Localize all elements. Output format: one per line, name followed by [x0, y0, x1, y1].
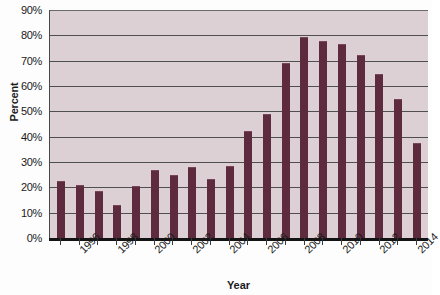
x-axis-title: Year — [49, 279, 428, 291]
bar-slot — [108, 10, 127, 238]
bar — [57, 181, 65, 238]
bar-slot — [89, 10, 108, 238]
x-axis-tick — [60, 238, 61, 245]
bar-slot — [276, 10, 295, 238]
bar — [188, 167, 196, 238]
bar — [413, 143, 421, 238]
bar — [95, 191, 103, 238]
bar-slot — [407, 10, 426, 238]
y-axis-tick-label: 60% — [21, 80, 42, 92]
bar — [282, 63, 290, 238]
y-axis-tick-label: 50% — [21, 105, 42, 117]
bar-slot — [314, 10, 333, 238]
bar — [170, 175, 178, 238]
plot-area — [49, 10, 428, 238]
bar-slot — [71, 10, 90, 238]
y-axis-tick-label: 10% — [21, 207, 42, 219]
bar-slot — [370, 10, 389, 238]
bar-slot — [146, 10, 165, 238]
bar — [226, 166, 234, 238]
bar — [338, 44, 346, 238]
x-tick-slot — [51, 238, 70, 245]
bar-slot — [202, 10, 221, 238]
bar-slot — [164, 10, 183, 238]
bar-slot — [220, 10, 239, 238]
bar-slot — [295, 10, 314, 238]
bars-container — [50, 10, 428, 238]
y-axis-tick-label: 20% — [21, 181, 42, 193]
y-axis-tick-label: 30% — [21, 156, 42, 168]
y-axis-tick-label: 40% — [21, 131, 42, 143]
y-axis-tick-labels: 0%10%20%30%40%50%60%70%80%90% — [0, 0, 48, 295]
bar — [76, 185, 84, 238]
bar — [113, 205, 121, 238]
bar — [151, 170, 159, 238]
bar — [244, 131, 252, 238]
y-axis-tick-label: 70% — [21, 55, 42, 67]
y-axis-tick-label: 0% — [27, 232, 42, 244]
bar — [357, 55, 365, 238]
bar — [319, 41, 327, 238]
y-axis-tick-label: 80% — [21, 29, 42, 41]
bar — [300, 37, 308, 238]
bar — [375, 74, 383, 238]
bar-slot — [183, 10, 202, 238]
bar — [207, 179, 215, 238]
bar-slot — [389, 10, 408, 238]
bar-slot — [127, 10, 146, 238]
bar-slot — [239, 10, 258, 238]
bar — [132, 186, 140, 238]
bar — [263, 114, 271, 238]
bar-slot — [52, 10, 71, 238]
bar — [394, 99, 402, 238]
bar-slot — [258, 10, 277, 238]
x-axis-tick-labels: 1996199820002002200420062008201020122014 — [49, 245, 428, 279]
bar-slot — [351, 10, 370, 238]
bar-slot — [333, 10, 352, 238]
y-axis-tick-label: 90% — [21, 4, 42, 16]
